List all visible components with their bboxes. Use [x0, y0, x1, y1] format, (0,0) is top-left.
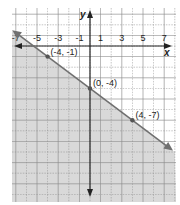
- x-tick-label: -1: [75, 33, 83, 43]
- data-point: [130, 118, 134, 122]
- data-point: [45, 54, 49, 58]
- graph-plot: -7-5-3-11357 x y (-4, -1)(0, -4)(4, -7): [0, 0, 180, 205]
- point-label: (-4, -1): [51, 47, 78, 57]
- x-tick-label: 7: [162, 33, 167, 43]
- x-tick-label: -3: [54, 33, 62, 43]
- x-tick-label: -5: [33, 33, 41, 43]
- x-tick-labels: -7-5-3-11357: [12, 33, 167, 43]
- data-point: [88, 86, 92, 90]
- point-label: (0, -4): [93, 78, 117, 88]
- x-axis-label: x: [163, 47, 170, 58]
- x-tick-label: 1: [98, 33, 103, 43]
- point-label: (4, -7): [135, 110, 159, 120]
- x-axis: [14, 43, 172, 49]
- y-axis-label: y: [79, 9, 86, 20]
- x-tick-label: 3: [119, 33, 124, 43]
- x-tick-label: 5: [140, 33, 145, 43]
